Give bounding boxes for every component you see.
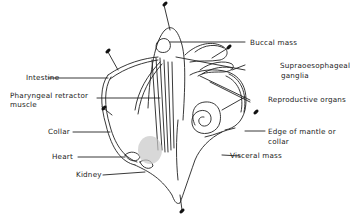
label-supraoesophageal-line1: Supraoesophageal — [280, 62, 350, 70]
anatomy-drawing — [0, 0, 362, 218]
label-heart: Heart — [52, 153, 73, 161]
anatomy-diagram: Buccal mass Supraoesophageal ganglia Rep… — [0, 0, 362, 218]
label-intestine: Intestine — [26, 74, 59, 82]
label-collar: Collar — [48, 128, 70, 136]
label-pharyngeal-line2: muscle — [10, 101, 37, 109]
label-visceral-mass: Visceral mass — [230, 152, 282, 160]
label-reproductive-organs: Reproductive organs — [268, 96, 346, 104]
label-buccal-mass: Buccal mass — [250, 39, 297, 47]
label-edge-line1: Edge of mantle or — [268, 128, 336, 136]
label-pharyngeal-line1: Pharyngeal retractor — [10, 92, 88, 100]
label-edge-line2: collar — [268, 138, 289, 146]
label-supraoesophageal-line2: ganglia — [281, 72, 309, 80]
label-kidney: Kidney — [76, 171, 102, 179]
